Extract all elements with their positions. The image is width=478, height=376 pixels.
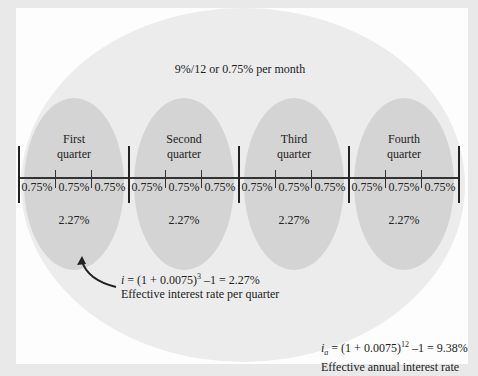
month-rate: 0.75% bbox=[92, 180, 128, 195]
monthly-rate-label: 9%/12 or 0.75% per month bbox=[140, 62, 340, 77]
month-rate: 0.75% bbox=[239, 180, 275, 195]
month-rate: 0.75% bbox=[276, 180, 312, 195]
month-rate: 0.75% bbox=[19, 180, 55, 195]
month-rate: 0.75% bbox=[166, 180, 202, 195]
annual-formula: ia = (1 + 0.0075)12 –1 = 9.38% Effective… bbox=[321, 338, 468, 374]
month-rate: 0.75% bbox=[349, 180, 385, 195]
quarter-label-1: Firstquarter bbox=[24, 132, 124, 162]
quarter-label-3: Thirdquarter bbox=[244, 132, 344, 162]
quarter-formula: i = (1 + 0.0075)3 –1 = 2.27% Effective i… bbox=[121, 270, 279, 301]
annual-formula-caption: Effective annual interest rate bbox=[321, 360, 459, 374]
month-rate: 0.75% bbox=[202, 180, 238, 195]
quarter-label-4: Fourthquarter bbox=[354, 132, 454, 162]
month-rate: 0.75% bbox=[386, 180, 422, 195]
quarter-tick bbox=[458, 146, 460, 203]
quarter-effective-rate: 2.27% bbox=[134, 213, 234, 228]
month-rate: 0.75% bbox=[422, 180, 458, 195]
quarter-formula-caption: Effective interest rate per quarter bbox=[121, 287, 279, 301]
month-rate: 0.75% bbox=[129, 180, 165, 195]
quarter-effective-rate: 2.27% bbox=[244, 213, 344, 228]
month-rate: 0.75% bbox=[56, 180, 92, 195]
month-rate: 0.75% bbox=[312, 180, 348, 195]
quarter-effective-rate: 2.27% bbox=[354, 213, 454, 228]
quarter-label-2: Secondquarter bbox=[134, 132, 234, 162]
arrow-icon bbox=[60, 255, 120, 295]
quarter-effective-rate: 2.27% bbox=[24, 213, 124, 228]
